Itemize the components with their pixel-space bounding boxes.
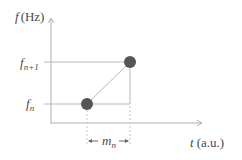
interval-label-mn: mn — [102, 133, 116, 150]
tick-label-fn: fn — [26, 96, 35, 113]
tick-label-fn1: fn+1 — [20, 55, 39, 72]
y-axis-label: f(Hz) — [15, 9, 44, 24]
point-fn1 — [124, 56, 136, 68]
mn-arrowhead-right-icon — [125, 139, 129, 143]
point-fn — [81, 98, 93, 110]
transition-line — [87, 62, 130, 104]
frequency-time-diagram: f(Hz) fn+1 fn mn t(a.u.) — [0, 0, 242, 160]
mn-arrowhead-left-icon — [88, 139, 92, 143]
x-axis-label: t(a.u.) — [190, 135, 224, 150]
